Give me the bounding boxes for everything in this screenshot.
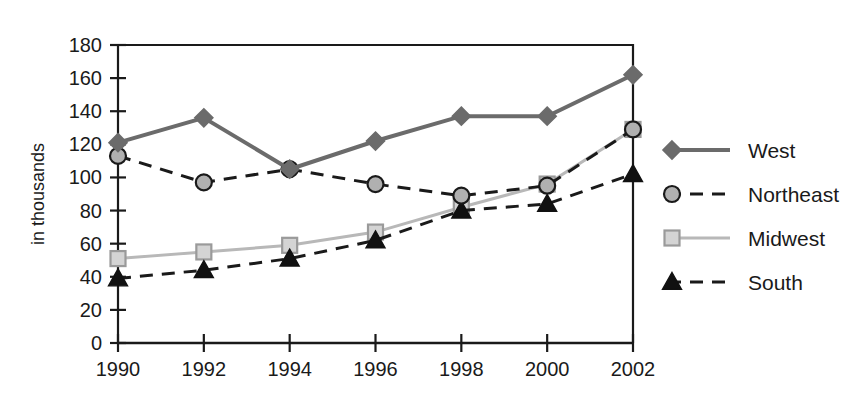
- plot-border: [118, 45, 633, 343]
- y-tick-label: 180: [69, 34, 102, 56]
- legend-label: South: [748, 271, 803, 294]
- marker-circle: [196, 174, 212, 190]
- legend-label: West: [748, 139, 796, 162]
- marker-circle: [625, 121, 641, 137]
- legend-item-northeast[interactable]: Northeast: [664, 183, 839, 206]
- marker-square: [665, 231, 680, 246]
- y-tick-label: 120: [69, 133, 102, 155]
- y-tick-label: 0: [91, 332, 102, 354]
- marker-diamond: [367, 132, 385, 150]
- legend-item-midwest[interactable]: Midwest: [665, 227, 826, 250]
- y-tick-label: 60: [80, 233, 102, 255]
- marker-diamond: [452, 107, 470, 125]
- x-tick-label: 2000: [525, 358, 570, 380]
- marker-diamond: [663, 141, 681, 159]
- x-tick-label: 1996: [353, 358, 398, 380]
- series-west: [109, 66, 642, 178]
- legend-item-south[interactable]: South: [663, 271, 803, 294]
- x-tick-label: 1994: [267, 358, 312, 380]
- y-tick-label: 40: [80, 266, 102, 288]
- y-axis-title: in thousands: [28, 143, 48, 245]
- legend-item-west[interactable]: West: [663, 139, 796, 162]
- chart-legend: WestNortheastMidwestSouth: [663, 139, 840, 294]
- series-layer: [109, 66, 643, 286]
- x-tick-label: 1992: [182, 358, 227, 380]
- y-tick-label: 20: [80, 299, 102, 321]
- x-tick-label: 1990: [96, 358, 141, 380]
- plot-frame: [118, 45, 633, 343]
- marker-diamond: [538, 107, 556, 125]
- x-axis-ticks: 1990199219941996199820002002: [96, 334, 656, 380]
- marker-square: [111, 251, 126, 266]
- marker-diamond: [195, 109, 213, 127]
- y-tick-label: 140: [69, 100, 102, 122]
- series-line: [118, 75, 633, 169]
- marker-square: [196, 244, 211, 259]
- x-tick-label: 1998: [439, 358, 484, 380]
- x-tick-label: 2002: [611, 358, 656, 380]
- line-chart: 020406080100120140160180 199019921994199…: [0, 0, 844, 407]
- marker-circle: [453, 188, 469, 204]
- y-tick-label: 80: [80, 200, 102, 222]
- marker-diamond: [109, 134, 127, 152]
- marker-circle: [539, 178, 555, 194]
- chart-canvas: 020406080100120140160180 199019921994199…: [0, 0, 844, 407]
- y-tick-label: 100: [69, 166, 102, 188]
- y-tick-label: 160: [69, 67, 102, 89]
- y-axis-title-text: in thousands: [28, 143, 48, 245]
- marker-circle: [664, 186, 680, 202]
- marker-circle: [368, 176, 384, 192]
- marker-diamond: [624, 66, 642, 84]
- marker-triangle: [624, 165, 643, 182]
- legend-label: Northeast: [748, 183, 839, 206]
- legend-label: Midwest: [748, 227, 825, 250]
